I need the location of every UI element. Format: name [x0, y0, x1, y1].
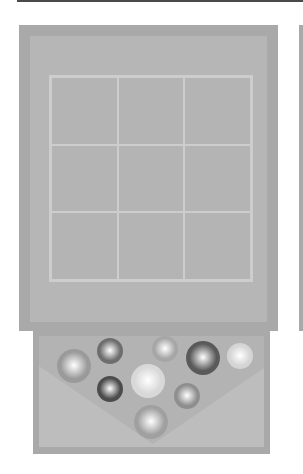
marble-7[interactable]	[131, 364, 165, 398]
board-cell-1-1[interactable]	[51, 77, 118, 145]
marble-6[interactable]	[97, 376, 123, 402]
board-grid	[49, 75, 253, 282]
marble-4[interactable]	[186, 341, 220, 375]
board-cell-2-3[interactable]	[184, 145, 251, 213]
board-cell-3-1[interactable]	[51, 212, 118, 280]
marble-9[interactable]	[134, 405, 168, 439]
top-divider	[17, 0, 303, 2]
adjacent-board-edge	[299, 25, 303, 331]
marble-8[interactable]	[174, 383, 200, 409]
board-cell-3-3[interactable]	[184, 212, 251, 280]
board-cell-3-2[interactable]	[118, 212, 185, 280]
marble-3[interactable]	[152, 336, 178, 362]
board-cell-2-1[interactable]	[51, 145, 118, 213]
game-board	[30, 36, 267, 322]
marble-2[interactable]	[97, 338, 123, 364]
board-cell-2-2[interactable]	[118, 145, 185, 213]
game-board-frame	[19, 25, 278, 331]
marble-5[interactable]	[227, 343, 253, 369]
marble-1[interactable]	[57, 349, 91, 383]
board-cell-1-3[interactable]	[184, 77, 251, 145]
board-cell-1-2[interactable]	[118, 77, 185, 145]
